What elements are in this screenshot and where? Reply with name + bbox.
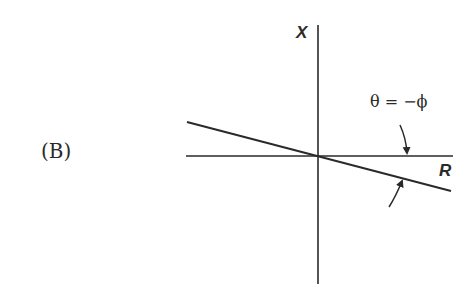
upper-arrow (400, 125, 407, 153)
lower-arrow (389, 181, 402, 207)
vertical-axis-label: X (296, 23, 307, 43)
horizontal-axis-label: R (439, 161, 451, 181)
equation-label: θ = −ϕ (370, 92, 428, 111)
diagram-canvas (0, 0, 473, 297)
